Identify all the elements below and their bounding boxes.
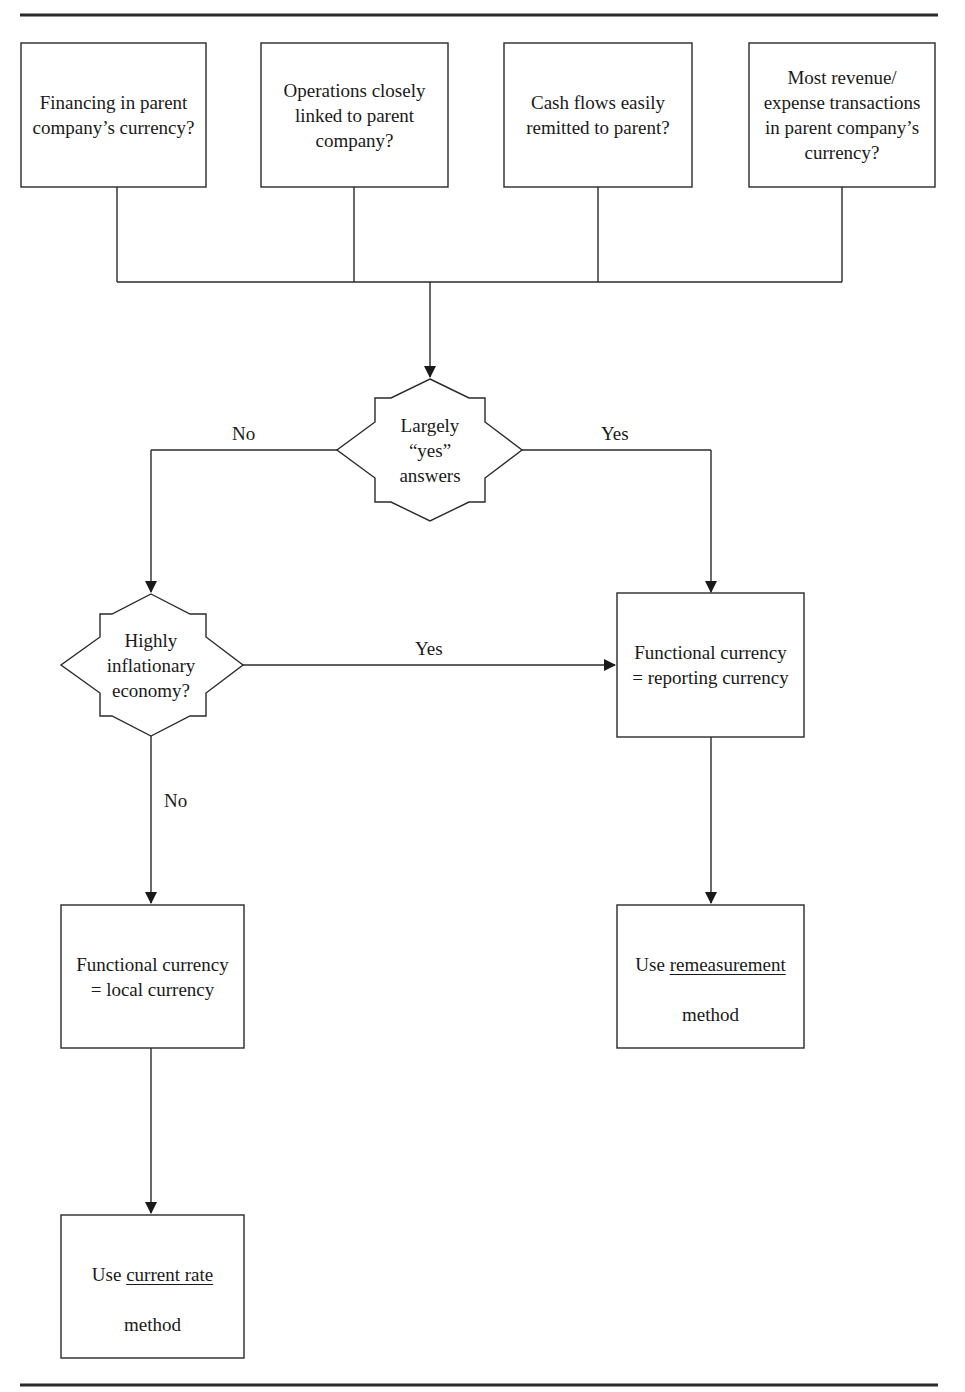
outcome-use-current-rate: Use current rate method [61,1215,244,1358]
edge-label-yes-1: Yes [601,423,629,445]
decision-text: Largely “yes” answers [399,413,460,488]
method-name-underlined: current rate [126,1264,213,1285]
outcome-suffix: method [124,1314,181,1335]
outcome-prefix: Use [635,954,669,975]
edge-label-no-2: No [164,790,187,812]
outcome-functional-local: Functional currency = local currency [61,905,244,1048]
question-operations-linked: Operations closely linked to parent comp… [261,43,448,187]
question-revenue-expense-currency: Most revenue/ expense transactions in pa… [749,43,935,187]
decision-largely-yes: Largely “yes” answers [360,400,500,500]
outcome-suffix: method [682,1004,739,1025]
edge-label-yes-2: Yes [415,638,443,660]
outcome-functional-reporting: Functional currency = reporting currency [617,593,804,737]
outcome-text: Functional currency = local currency [76,952,228,1002]
edge-label-no-1: No [232,423,255,445]
question-text: Operations closely linked to parent comp… [284,78,426,153]
outcome-use-remeasurement: Use remeasurement method [617,905,804,1048]
question-financing-currency: Financing in parent company’s currency? [21,43,206,187]
decision-text: Highly inflationary economy? [107,628,196,703]
decision-highly-inflationary: Highly inflationary economy? [81,615,221,715]
question-cash-flows-remitted: Cash flows easily remitted to parent? [504,43,692,187]
outcome-text: Functional currency = reporting currency [632,640,788,690]
method-name-underlined: remeasurement [670,954,786,975]
question-text: Financing in parent company’s currency? [33,90,195,140]
question-text: Cash flows easily remitted to parent? [526,90,670,140]
question-text: Most revenue/ expense transactions in pa… [764,65,921,165]
outcome-prefix: Use [92,1264,126,1285]
